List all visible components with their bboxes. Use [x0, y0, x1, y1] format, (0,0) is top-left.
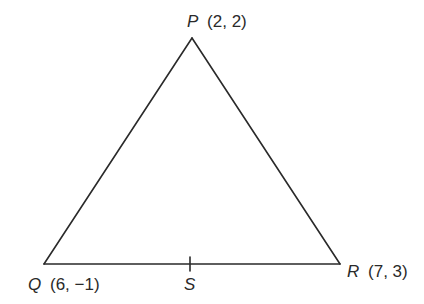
- point-s-label: S: [184, 275, 196, 294]
- vertex-p-label: P (2, 2): [187, 12, 247, 31]
- vertex-r-coords: (7, 3): [368, 262, 408, 281]
- vertex-p-name: P: [187, 12, 199, 31]
- vertex-r-name: R: [347, 262, 359, 281]
- edge-pq: [44, 38, 192, 264]
- triangle-pqr: [44, 38, 340, 271]
- edge-pr: [192, 38, 340, 264]
- vertex-r-label: R (7, 3): [347, 262, 408, 281]
- vertex-p-coords: (2, 2): [207, 12, 247, 31]
- vertex-q-name: Q: [28, 275, 41, 294]
- vertex-q-coords: (6, −1): [50, 275, 100, 294]
- triangle-diagram: P (2, 2) Q (6, −1) S R (7, 3): [0, 0, 424, 304]
- vertex-q-label: Q (6, −1): [28, 275, 100, 294]
